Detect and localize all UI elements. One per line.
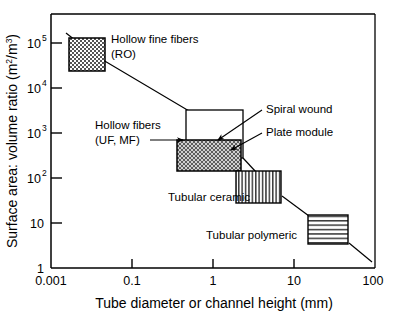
annotation-tubular-ceramic-label: Tubular ceramic [168,191,250,203]
membrane-module-chart: 10 5 10 4 10 3 10 2 10 1 [0,0,394,321]
y-tick-label-1e4: 10 4 [27,78,47,96]
x-tick-label-1: 1 [210,274,217,288]
annotation-spiral-wound-label: Spiral wound [266,103,332,115]
y-tick-label-1e4-mantissa: 10 [27,82,41,96]
y-tick-label-1e2-exponent: 2 [42,168,47,178]
x-tick-label-100: 100 [363,274,384,288]
y-axis-title: Surface area: volume ratio (m2/m3) [4,34,20,248]
y-axis-ticks [51,43,62,223]
y-tick-label-1e3-mantissa: 10 [27,127,41,141]
x-tick-labels: 0.001 0.1 1 10 100 [35,274,383,288]
module-box-tubular-polymeric [308,215,348,244]
annotation-hollow-fibers-uf-mf-line2: (UF, MF) [95,134,140,146]
annotation-tubular-polymeric-label: Tubular polymeric [206,229,297,241]
y-tick-label-1e5: 10 5 [27,33,47,51]
y-tick-label-10: 10 [30,217,44,231]
y-tick-label-1e3: 10 3 [27,123,47,141]
annotation-hollow-fibers-uf-mf-line1: Hollow fibers [95,119,161,131]
y-tick-label-1e3-exponent: 3 [42,123,47,133]
trend-seg-5 [349,243,372,262]
annotation-plate-module-label: Plate module [266,126,333,138]
chart-svg: 10 5 10 4 10 3 10 2 10 1 [0,0,394,321]
module-box-hollow-fine-fibers-ro [69,38,105,71]
y-tick-label-1e2: 10 2 [27,168,47,186]
y-tick-label-1e2-mantissa: 10 [27,172,41,186]
annotation-hollow-fibers-uf-mf: Hollow fibers (UF, MF) [95,119,183,146]
x-axis-title: Tube diameter or channel height (mm) [95,295,333,311]
y-tick-label-1e5-exponent: 5 [42,33,47,43]
x-axis-ticks [132,259,294,268]
annotation-plate-module: Plate module [231,126,333,150]
y-tick-label-1e5-mantissa: 10 [27,37,41,51]
trend-seg-4 [282,196,309,216]
trend-seg-3 [243,158,256,172]
y-axis-title-mid: /m [4,43,20,59]
y-tick-labels: 10 5 10 4 10 3 10 2 10 1 [27,33,47,276]
x-tick-label-0.1: 0.1 [123,274,140,288]
x-tick-label-0.001: 0.001 [35,274,66,288]
y-tick-label-1e4-exponent: 4 [42,78,47,88]
y-axis-title-close: ) [4,34,20,39]
annotation-hollow-fine-fibers-ro-line1: Hollow fine fibers [111,33,199,45]
annotation-hollow-fine-fibers-ro-line2: (RO) [111,48,136,60]
annotation-hollow-fine-fibers-ro: Hollow fine fibers (RO) [111,33,199,60]
x-tick-label-10: 10 [287,274,301,288]
y-axis-title-base: Surface area: volume ratio (m [4,64,20,248]
module-box-hollow-fibers-uf-mf [177,140,241,171]
svg-text:Surface area: volume ratio (m2: Surface area: volume ratio (m2/m3) [4,34,20,248]
